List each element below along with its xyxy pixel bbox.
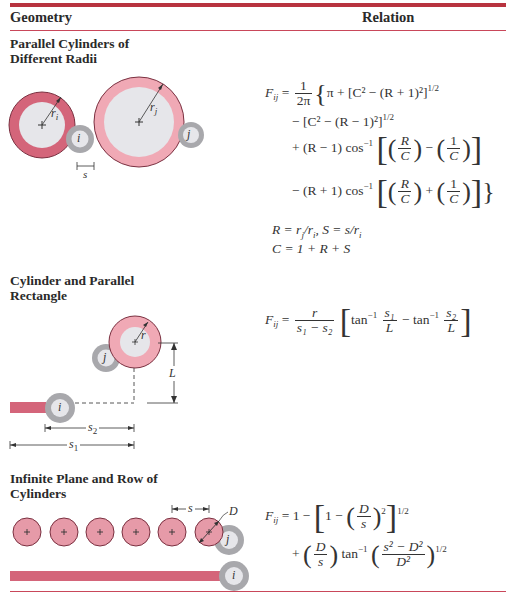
label-i: i	[232, 568, 235, 583]
label-j: j	[226, 532, 229, 547]
plane-row-diagram	[0, 0, 512, 603]
relation-3-line-2: + (Ds) tan−1 (s² − D²D²)1/2	[292, 540, 447, 569]
relation-3-line-1: Fij = 1 − [1 − (Ds)2]1/2	[265, 502, 409, 531]
label-s: s	[186, 501, 195, 516]
bottom-rule	[10, 591, 506, 592]
label-D: D	[229, 504, 238, 519]
